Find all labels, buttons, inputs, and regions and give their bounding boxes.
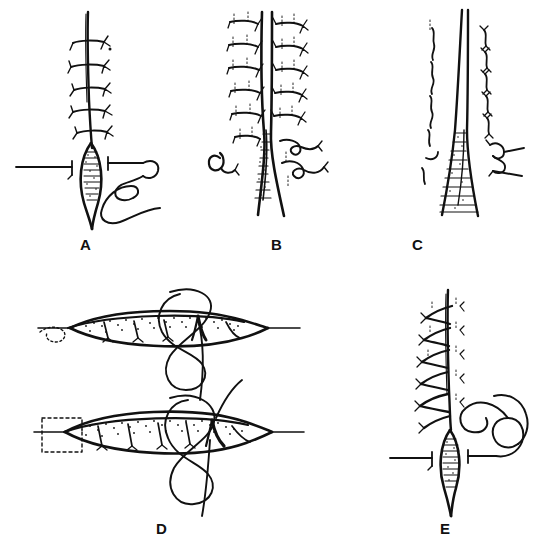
interrupted-sutures-right-b — [271, 14, 308, 125]
panel-label-d: D — [156, 520, 167, 537]
panel-a: A — [0, 0, 190, 235]
stitch-marks-right-c — [480, 26, 493, 138]
figure-canvas: A — [0, 0, 544, 548]
panel-b: B — [200, 0, 350, 235]
wound-line-e — [446, 290, 451, 430]
closed-wound-line-c — [442, 10, 478, 216]
needle-and-thread-e — [460, 395, 527, 463]
panel-c: C — [400, 0, 544, 235]
panel-e-drawing — [390, 280, 544, 530]
panel-label-c: C — [412, 236, 423, 253]
knot-loop-left-b — [209, 153, 239, 175]
buried-stitches-upper-d — [103, 316, 240, 342]
lower-elliptical-wound-d — [34, 412, 304, 454]
panel-label-a: A — [80, 236, 91, 253]
panel-e: E — [390, 280, 544, 530]
open-wound-ellipse-a — [81, 143, 102, 229]
instrument-shaft-left-a — [16, 161, 72, 179]
panel-b-drawing — [200, 0, 350, 235]
instrument-shaft-left-e — [390, 452, 432, 470]
panel-c-drawing — [400, 0, 544, 235]
buried-stitches-lower-d — [97, 420, 250, 450]
knot-loops-right-b — [280, 140, 328, 186]
closed-incision-line-a — [86, 12, 92, 148]
running-continuous-suture-e — [415, 298, 464, 433]
panel-a-drawing — [0, 0, 190, 235]
stitch-marks-left-c — [422, 20, 438, 184]
open-wound-ellipse-e — [441, 430, 460, 516]
panel-d: D — [20, 280, 310, 530]
panel-label-e: E — [440, 520, 451, 537]
double-knot-loop-c — [486, 140, 524, 176]
panel-label-b: B — [271, 236, 282, 253]
interrupted-sutures-left-b — [227, 12, 265, 146]
panel-d-drawing — [20, 280, 310, 530]
needle-and-thread-a — [101, 157, 160, 223]
